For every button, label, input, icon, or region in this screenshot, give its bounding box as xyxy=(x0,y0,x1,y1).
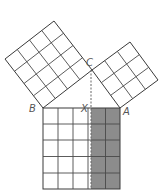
square-on-ab xyxy=(43,108,120,189)
square-on-bc xyxy=(5,21,92,108)
pythagorean-diagram: C B X A xyxy=(0,0,162,196)
label-b: B xyxy=(29,103,36,114)
square-on-ca xyxy=(92,42,158,108)
label-a: A xyxy=(122,106,130,117)
label-c: C xyxy=(86,57,93,68)
label-x: X xyxy=(80,103,89,114)
